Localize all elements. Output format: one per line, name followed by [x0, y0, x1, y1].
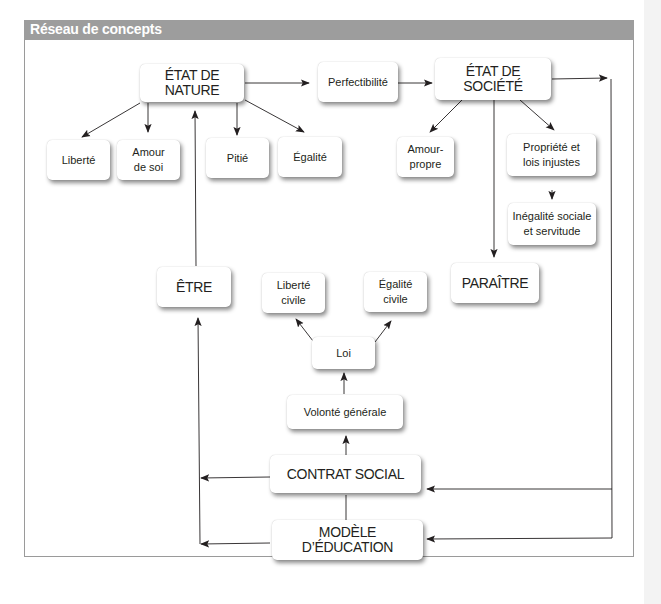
node-label: MODÈLE D’ÉDUCATION [274, 525, 421, 555]
node-volonte-generale: Volonté générale [287, 395, 403, 429]
node-amour-de-soi: Amour de soi [117, 140, 180, 180]
node-propriete-lois-injustes: Propriété et lois injustes [507, 134, 596, 176]
node-label: PARAÎTRE [462, 276, 529, 291]
node-label: Égalité civile [379, 277, 413, 307]
node-label: Amour- propre [407, 142, 443, 172]
node-label: Liberté civile [277, 278, 311, 308]
node-modele-education: MODÈLE D’ÉDUCATION [272, 520, 423, 560]
node-label: ÉTAT DE NATURE [142, 68, 242, 98]
node-perfectibilite: Perfectibilité [318, 62, 398, 102]
node-paraitre: PARAÎTRE [451, 263, 539, 303]
node-egalite: Égalité [278, 137, 342, 177]
node-pitie: Pitié [206, 138, 269, 178]
node-etre: ÊTRE [157, 267, 231, 307]
node-label: Pitié [227, 151, 248, 166]
node-label: Volonté générale [304, 405, 387, 420]
node-label: CONTRAT SOCIAL [287, 467, 404, 482]
node-amour-propre: Amour- propre [397, 137, 454, 177]
node-label: ÊTRE [176, 280, 212, 295]
node-egalite-civile: Égalité civile [364, 272, 427, 312]
node-label: Liberté [62, 153, 96, 168]
node-label: Propriété et lois injustes [523, 140, 580, 170]
node-etat-de-societe: ÉTAT DE SOCIÉTÉ [435, 58, 551, 100]
node-liberte-civile: Liberté civile [262, 273, 325, 313]
node-label: Perfectibilité [328, 75, 388, 90]
node-etat-de-nature: ÉTAT DE NATURE [140, 64, 244, 102]
node-label: ÉTAT DE SOCIÉTÉ [437, 64, 549, 94]
node-label: Loi [336, 346, 351, 361]
node-label: Inégalité sociale et servitude [513, 209, 592, 239]
node-inegalite-sociale: Inégalité sociale et servitude [508, 203, 596, 245]
node-label: Amour de soi [132, 145, 164, 175]
node-loi: Loi [312, 337, 375, 369]
node-label: Égalité [293, 150, 327, 165]
node-contrat-social: CONTRAT SOCIAL [270, 455, 421, 493]
node-liberte: Liberté [47, 140, 110, 180]
